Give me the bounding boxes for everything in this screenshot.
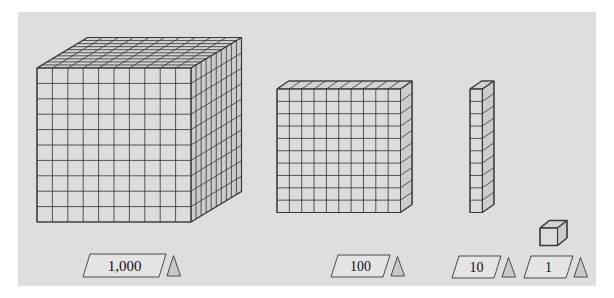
- one-unit-label-plate[interactable]: [524, 256, 573, 278]
- hundred-flat-label[interactable]: [331, 255, 405, 277]
- triangle-icon: [391, 257, 405, 277]
- ten-rod-label[interactable]: [452, 256, 516, 278]
- hundred-flat-label-plate[interactable]: [331, 255, 390, 277]
- ten-rod: [470, 81, 494, 213]
- one-unit-front-face: [540, 228, 558, 246]
- thousand-cube-label-plate[interactable]: [83, 254, 166, 277]
- thousand-cube-label[interactable]: [83, 254, 181, 277]
- figure-canvas: 1,000 100 10 1: [0, 0, 614, 298]
- triangle-icon: [574, 258, 588, 278]
- thousand-cube: [37, 38, 242, 223]
- one-unit: [540, 221, 567, 246]
- base-ten-blocks-illustration: [0, 0, 614, 298]
- triangle-icon: [167, 256, 181, 277]
- hundred-flat: [277, 81, 412, 213]
- triangle-icon: [502, 258, 516, 278]
- one-unit-label[interactable]: [524, 256, 588, 278]
- ten-rod-label-plate[interactable]: [452, 256, 501, 278]
